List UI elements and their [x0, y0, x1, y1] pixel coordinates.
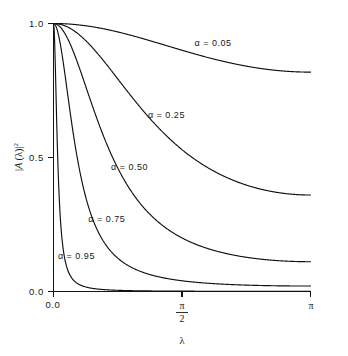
- y-tick-labels: 1.0 0.5 0.0: [29, 18, 44, 297]
- pi-over-2-numerator: π: [179, 300, 184, 311]
- y-axis-ticks: [48, 24, 54, 292]
- y-title-a: A: [13, 162, 24, 170]
- x-ticklabel-0-0: 0.0: [45, 299, 60, 310]
- y-ticklabel-1-0: 1.0: [29, 18, 44, 29]
- curve-alpha-0-50: [54, 24, 311, 262]
- curve-label-alpha-0-05: α = 0.05: [195, 38, 232, 48]
- curve-label-alpha-0-95: α = 0.95: [58, 251, 95, 261]
- x-tick-labels: 0.0 π 2 π: [45, 299, 313, 324]
- x-ticklabel-pi-over-2: π 2: [176, 300, 188, 324]
- x-axis-ticks: [54, 292, 311, 298]
- x-axis-title: λ: [179, 335, 185, 346]
- curve-label-alpha-0-50: α = 0.50: [111, 162, 148, 172]
- y-title-exponent: 2: [12, 142, 20, 146]
- amplification-factor-chart: 1.0 0.5 0.0 0.0 π 2 π λ |A(λ)|2: [0, 0, 348, 356]
- y-axis-title: |A(λ)|2: [12, 142, 25, 171]
- y-axis-title-text: |A(λ)|2: [12, 142, 25, 171]
- pi-over-2-denominator: 2: [180, 313, 185, 324]
- y-ticklabel-0-5: 0.5: [29, 152, 44, 163]
- curve-labels-group: α = 0.05 α = 0.25 α = 0.50 α = 0.75 α = …: [58, 38, 232, 261]
- curve-alpha-0-75: [54, 24, 311, 287]
- y-ticklabel-0-0: 0.0: [29, 286, 44, 297]
- figure-container: 1.0 0.5 0.0 0.0 π 2 π λ |A(λ)|2: [0, 0, 348, 356]
- curve-label-alpha-0-25: α = 0.25: [148, 110, 185, 120]
- curve-label-alpha-0-75: α = 0.75: [88, 214, 125, 224]
- x-ticklabel-pi: π: [308, 300, 313, 311]
